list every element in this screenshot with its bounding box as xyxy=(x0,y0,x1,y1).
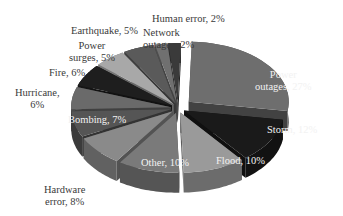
label-line: 6% xyxy=(15,99,60,111)
label-line: outages, 27% xyxy=(255,81,312,93)
label-line: Power xyxy=(255,69,312,81)
label-line: Power xyxy=(69,40,115,52)
label-line: error, 8% xyxy=(44,196,85,208)
label-line: Earthquake, 5% xyxy=(71,25,138,37)
label-line: Network xyxy=(143,27,194,39)
label-line: surges, 5% xyxy=(69,52,115,64)
label-human-error: Human error, 2% xyxy=(152,13,225,25)
label-line: Bombing, 7% xyxy=(68,114,126,126)
label-hurricane: Hurricane, 6% xyxy=(15,87,60,111)
label-power-outages: Power outages, 27% xyxy=(255,69,312,93)
label-bombing: Bombing, 7% xyxy=(68,114,126,126)
label-line: Fire, 6% xyxy=(49,67,85,79)
label-fire: Fire, 6% xyxy=(49,67,85,79)
label-hardware-error: Hardware error, 8% xyxy=(44,184,85,208)
label-storm: Storm, 12% xyxy=(267,124,317,136)
label-line: Hurricane, xyxy=(15,87,60,99)
label-line: outages, 2% xyxy=(143,39,194,51)
label-line: Other, 10% xyxy=(141,157,189,169)
label-line: Storm, 12% xyxy=(267,124,317,136)
label-power-surges: Power surges, 5% xyxy=(69,40,115,64)
label-earthquake: Earthquake, 5% xyxy=(71,25,138,37)
label-flood: Flood, 10% xyxy=(216,155,265,167)
label-line: Hardware xyxy=(44,184,85,196)
label-other: Other, 10% xyxy=(141,157,189,169)
label-line: Flood, 10% xyxy=(216,155,265,167)
label-network-outages: Network outages, 2% xyxy=(143,27,194,51)
label-line: Human error, 2% xyxy=(152,13,225,25)
